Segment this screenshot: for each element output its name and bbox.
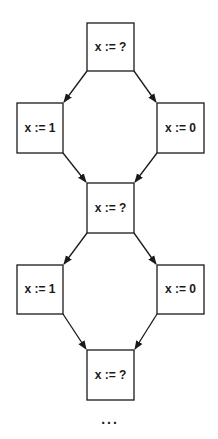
edge-n5-n7: [63, 314, 86, 349]
edge-n1-n2: [64, 71, 87, 102]
node-assign-one-2: x := 1: [17, 265, 63, 314]
edge-n3-n4: [135, 153, 157, 182]
node-assign-unknown-2: x := ?: [87, 183, 134, 233]
edge-n4-n6: [134, 233, 156, 264]
edge-n4-n5: [64, 233, 87, 264]
edge-n2-n4: [63, 153, 86, 182]
node-label: x := ?: [95, 201, 127, 215]
node-assign-zero-2: x := 0: [157, 265, 204, 314]
node-label: x := 0: [165, 121, 196, 135]
node-label: x := 1: [24, 121, 55, 135]
edge-n1-n3: [134, 71, 156, 102]
node-assign-one-1: x := 1: [17, 103, 63, 153]
node-label: x := ?: [95, 40, 127, 54]
control-flow-diagram: x := ? x := 1 x := 0 x := ? x := 1 x := …: [0, 0, 218, 439]
node-label: x := 0: [165, 282, 196, 296]
continuation-ellipsis: ...: [101, 411, 119, 427]
node-label: x := 1: [24, 282, 55, 296]
node-label: x := ?: [95, 368, 127, 382]
node-assign-unknown-3: x := ?: [87, 350, 134, 400]
node-assign-unknown-1: x := ?: [87, 23, 134, 71]
node-assign-zero-1: x := 0: [157, 103, 204, 153]
edge-n6-n7: [135, 314, 157, 349]
